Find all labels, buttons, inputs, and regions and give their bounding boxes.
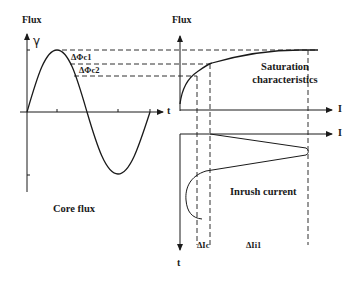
sat-i-axis-label: I	[338, 104, 342, 114]
core-flux-plot	[20, 34, 163, 192]
delta-phi-c1-label: ΔΦc1	[71, 53, 91, 62]
left-t-axis-label: t	[167, 106, 170, 116]
left-flux-axis-label: Flux	[22, 15, 41, 25]
inrush-i-axis-label: I	[338, 128, 342, 138]
right-flux-axis-label: Flux	[172, 15, 191, 25]
delta-phi-c2-label: ΔΦc2	[79, 66, 99, 75]
delta-ic-label: ΔIc	[197, 241, 209, 250]
inrush-t-axis-label: t	[177, 258, 180, 268]
inrush-current-curve	[186, 134, 308, 219]
delta-ii1-label: ΔIi1	[246, 241, 261, 250]
core-flux-caption: Core flux	[53, 204, 95, 215]
inrush-current-caption: Inrush current	[230, 187, 297, 198]
saturation-caption-line1: Saturation	[235, 62, 335, 73]
saturation-caption-line2: characteristics	[235, 75, 335, 86]
left-y-symbol: γ	[33, 35, 40, 47]
diagram-canvas	[0, 0, 358, 281]
